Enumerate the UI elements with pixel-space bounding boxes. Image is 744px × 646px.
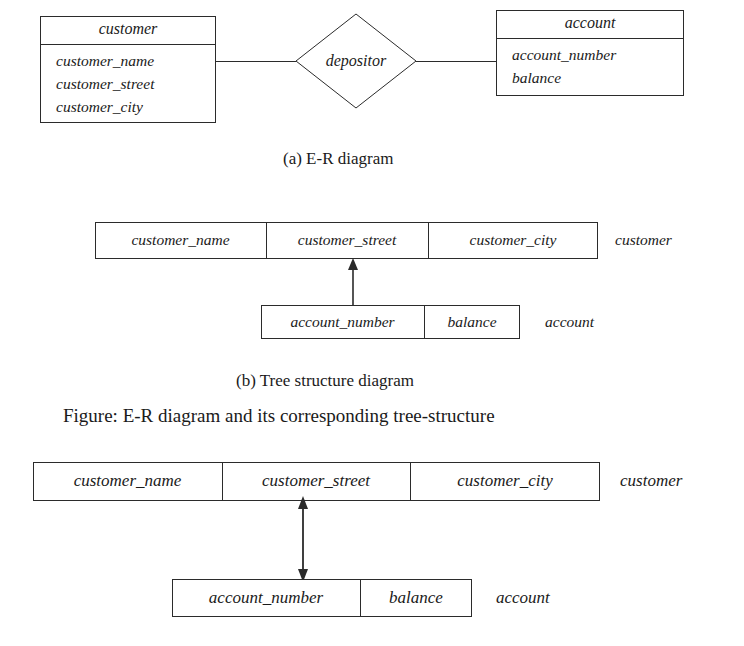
tree-large-account-field-0: account_number [172,588,360,608]
tree-large-customer-field-1: customer_street [222,471,410,491]
caption-er-diagram: (a) E-R diagram [283,149,393,169]
er-customer-attribute-list: customer_name customer_street customer_c… [56,49,216,118]
er-customer-title-divider [41,44,215,45]
tree-large-customer-side-label: customer [620,471,682,491]
tree-large-account-side-label: account [496,588,550,608]
tree-small-customer-field-0: customer_name [95,231,266,249]
er-customer-attribute-2: customer_city [56,95,216,118]
er-customer-entity-title: customer [40,20,216,38]
er-connector-customer-depositor [216,61,296,62]
tree-large-customer-field-2: customer_city [410,471,600,491]
tree-small-account-side-label: account [545,313,594,331]
tree-small-customer-side-label: customer [615,231,672,249]
tree-small-account-field-1: balance [424,313,520,331]
er-account-entity-title: account [496,14,684,32]
tree-small-account-field-0: account_number [261,313,424,331]
er-connector-depositor-account [416,61,497,62]
tree-large-account-field-1: balance [360,588,472,608]
caption-tree-structure-diagram: (b) Tree structure diagram [236,371,414,391]
er-account-title-divider [497,38,683,39]
er-customer-attribute-0: customer_name [56,49,216,72]
tree-small-link-arrow-icon [343,256,363,308]
er-account-attribute-1: balance [512,66,684,89]
er-depositor-label: depositor [295,52,417,70]
figure-canvas: customer customer_name customer_street c… [0,0,744,646]
tree-small-customer-field-2: customer_city [428,231,598,249]
tree-large-customer-field-0: customer_name [33,471,222,491]
tree-small-customer-field-1: customer_street [266,231,428,249]
er-account-attribute-0: account_number [512,43,684,66]
tree-large-link-double-arrow-icon [292,495,314,583]
er-customer-attribute-1: customer_street [56,72,216,95]
figure-caption: Figure: E-R diagram and its correspondin… [63,405,495,427]
er-account-attribute-list: account_number balance [512,43,684,89]
